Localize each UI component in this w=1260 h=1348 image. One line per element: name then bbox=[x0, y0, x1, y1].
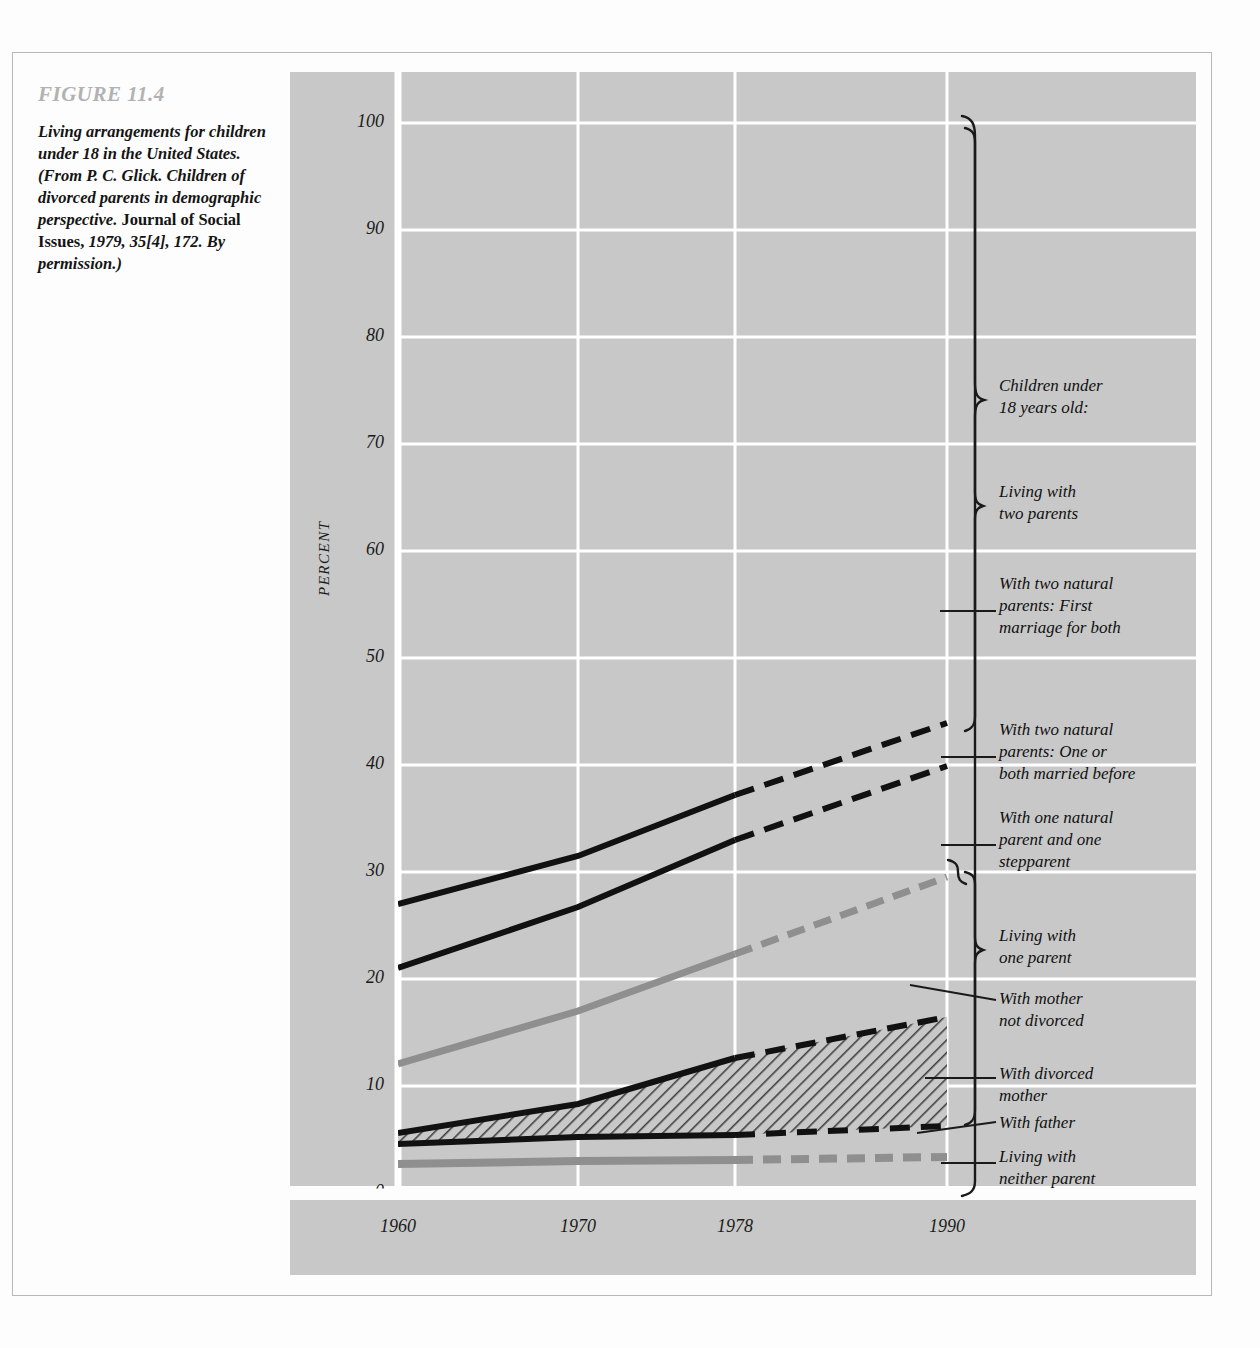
figure-caption-text: Living arrangements for children under 1… bbox=[38, 121, 268, 275]
legend-label-mother-not-divorced: With mother not divorced bbox=[999, 988, 1084, 1032]
y-tick-label-60: 60 bbox=[330, 539, 384, 560]
legend-label-two-natural-remarried: With two natural parents: One or both ma… bbox=[999, 719, 1135, 784]
legend-label-one-natural-stepparent: With one natural parent and one steppare… bbox=[999, 807, 1113, 872]
figure-caption-block: FIGURE 11.4 Living arrangements for chil… bbox=[38, 82, 268, 275]
x-tick-label-1990: 1990 bbox=[902, 1216, 992, 1237]
legend-label-neither-parent: Living with neither parent bbox=[999, 1146, 1095, 1190]
x-tick-label-1978: 1978 bbox=[690, 1216, 780, 1237]
y-tick-label-70: 70 bbox=[330, 432, 384, 453]
x-tick-label-1970: 1970 bbox=[533, 1216, 623, 1237]
y-tick-label-40: 40 bbox=[330, 753, 384, 774]
y-tick-label-30: 30 bbox=[330, 860, 384, 881]
y-tick-label-10: 10 bbox=[330, 1074, 384, 1095]
legend-label-children-under-18: Children under 18 years old: bbox=[999, 375, 1103, 419]
y-tick-label-20: 20 bbox=[330, 967, 384, 988]
y-tick-label-80: 80 bbox=[330, 325, 384, 346]
legend-label-living-with-one-parent: Living with one parent bbox=[999, 925, 1076, 969]
y-tick-label-0: 0 bbox=[330, 1181, 384, 1202]
y-tick-label-100: 100 bbox=[330, 111, 384, 132]
legend-label-two-natural-first-marriage: With two natural parents: First marriage… bbox=[999, 573, 1121, 638]
y-tick-label-50: 50 bbox=[330, 646, 384, 667]
legend-label-with-father: With father bbox=[999, 1112, 1075, 1134]
legend-label-divorced-mother: With divorced mother bbox=[999, 1063, 1093, 1107]
figure-page: FIGURE 11.4 Living arrangements for chil… bbox=[0, 0, 1260, 1348]
legend-label-living-with-two-parents: Living with two parents bbox=[999, 481, 1078, 525]
y-tick-label-90: 90 bbox=[330, 218, 384, 239]
x-tick-label-1960: 1960 bbox=[353, 1216, 443, 1237]
figure-number: FIGURE 11.4 bbox=[38, 82, 268, 107]
